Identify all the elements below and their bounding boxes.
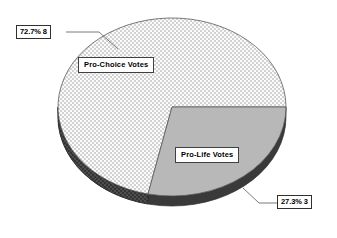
leader-line-pro-life xyxy=(243,188,277,203)
callout-pro-life-value: 27.3% 3 xyxy=(277,195,312,209)
slice-label-pro-life: Pro-Life Votes xyxy=(175,147,239,163)
callout-pro-choice-value: 72.7% 8 xyxy=(16,25,51,39)
slice-label-pro-choice: Pro-Choice Votes xyxy=(78,57,154,73)
pie-chart-figure: 72.7% 8 27.3% 3 Pro-Choice Votes Pro-Lif… xyxy=(0,0,337,238)
